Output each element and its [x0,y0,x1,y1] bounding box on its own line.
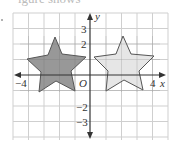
y-axis-up-arrow-icon [87,13,93,20]
dark-star [27,37,86,92]
y-axis-down-arrow-icon [87,132,93,139]
y-tick-label-2: 2 [81,38,87,50]
y-axis-label: y [94,10,100,22]
y-tick-label-3: 3 [81,23,87,35]
x-tick-label-4: 4 [150,77,156,89]
y-tick-label-neg3: −3 [76,116,88,128]
coordinate-graph: y x O −4 4 3 2 −2 −3 [0,0,179,146]
y-tick-label-neg2: −2 [76,101,88,113]
x-axis-label: x [159,77,165,89]
x-tick-label-neg4: −4 [15,77,27,89]
origin-label: O [79,77,87,89]
